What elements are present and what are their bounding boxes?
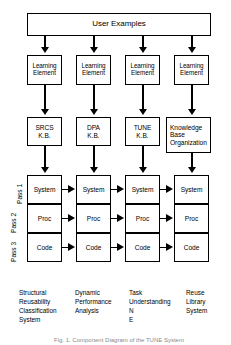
user-examples-label: User Examples	[92, 20, 146, 29]
arrow-kb-to-system-4	[188, 153, 197, 173]
learning-element-label: Learning Element	[81, 63, 105, 77]
figure-caption: Fig. 1. Component Diagram of the TUNE Sy…	[26, 337, 212, 344]
stack-box-system-reuse: System	[174, 175, 209, 204]
stack-label: System	[132, 186, 154, 193]
learning-element-box-reuse: Learning Element	[174, 55, 209, 85]
arrow-kb-to-system-1	[41, 146, 50, 173]
arrow-user-to-learning-3	[139, 36, 148, 53]
arrow-user-to-learning-1	[41, 36, 50, 53]
stack-label: Proc	[185, 215, 198, 222]
kb-box-reuse: Knowledge Base Organization	[166, 117, 211, 153]
stack-label: Code	[37, 244, 53, 251]
arrow-code-srcs-to-dpa	[62, 243, 75, 252]
learning-element-label: Learning Element	[179, 63, 203, 77]
arrow-system-dpa-to-tune	[111, 185, 124, 194]
arrow-kb-to-system-3	[139, 146, 148, 173]
arrow-system-tune-to-reuse	[160, 185, 173, 194]
stack-box-system-dpa: System	[76, 175, 111, 204]
stack-box-proc-dpa: Proc	[76, 204, 111, 233]
stack-label: System	[181, 186, 203, 193]
stack-label: Code	[86, 244, 102, 251]
arrow-proc-srcs-to-dpa	[62, 214, 75, 223]
stack-box-code-tune: Code	[125, 233, 160, 262]
arrow-user-to-learning-2	[90, 36, 99, 53]
user-examples-box: User Examples	[27, 13, 211, 36]
stack-box-code-dpa: Code	[76, 233, 111, 262]
learning-element-box-dpa: Learning Element	[76, 55, 111, 85]
learning-element-label: Learning Element	[130, 63, 154, 77]
component-diagram: User Examples Learning Element Learning …	[0, 0, 231, 345]
kb-box-dpa: DPA K.B.	[76, 117, 111, 146]
stack-box-code-reuse: Code	[174, 233, 209, 262]
stack-box-proc-tune: Proc	[125, 204, 160, 233]
arrow-learning-to-kb-2	[90, 85, 99, 115]
learning-element-box-tune: Learning Element	[125, 55, 160, 85]
stack-box-proc-reuse: Proc	[174, 204, 209, 233]
arrow-proc-tune-to-reuse	[160, 214, 173, 223]
arrow-user-to-learning-4	[188, 36, 197, 53]
arrow-learning-to-kb-1	[41, 85, 50, 115]
kb-label: Knowledge Base Organization	[170, 124, 207, 145]
column-caption-tune: Task Understanding N E	[129, 288, 187, 324]
arrow-code-dpa-to-tune	[111, 243, 124, 252]
column-caption-reuse: Reuse Library System	[186, 288, 231, 315]
stack-label: Code	[184, 244, 200, 251]
pass-label-2: Pass 2	[10, 213, 17, 233]
stack-label: System	[83, 186, 105, 193]
pass-label-3: Pass 3	[10, 242, 17, 262]
stack-label: Proc	[136, 215, 149, 222]
arrow-learning-to-kb-4	[188, 85, 197, 115]
learning-element-label: Learning Element	[32, 63, 56, 77]
stack-box-code-srcs: Code	[27, 233, 62, 262]
stack-label: Code	[135, 244, 151, 251]
stack-box-proc-srcs: Proc	[27, 204, 62, 233]
column-caption-srcs: Structural Reusability Classification Sy…	[19, 288, 74, 324]
pass-label-1: Pass 1	[16, 184, 23, 204]
stack-label: Proc	[87, 215, 100, 222]
kb-box-tune: TUNE K.B.	[125, 117, 160, 146]
arrow-code-tune-to-reuse	[160, 243, 173, 252]
arrow-learning-to-kb-3	[139, 85, 148, 115]
arrow-proc-dpa-to-tune	[111, 214, 124, 223]
stack-label: Proc	[38, 215, 51, 222]
column-caption-dpa: Dynamic Performance Analysis	[75, 288, 130, 315]
arrow-kb-to-system-2	[90, 146, 99, 173]
kb-label: TUNE K.B.	[134, 124, 152, 138]
stack-label: System	[34, 186, 56, 193]
arrow-system-srcs-to-dpa	[62, 185, 75, 194]
learning-element-box-srcs: Learning Element	[27, 55, 62, 85]
kb-box-srcs: SRCS K.B.	[27, 117, 62, 146]
kb-label: DPA K.B.	[87, 124, 100, 138]
stack-box-system-srcs: System	[27, 175, 62, 204]
stack-box-system-tune: System	[125, 175, 160, 204]
kb-label: SRCS K.B.	[35, 124, 53, 138]
